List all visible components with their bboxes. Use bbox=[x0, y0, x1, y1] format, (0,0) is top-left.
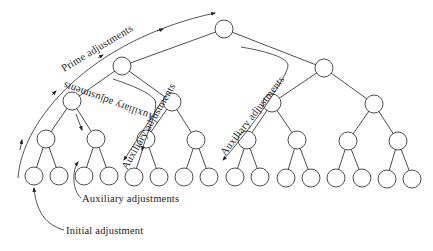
node-l3 bbox=[339, 132, 357, 150]
node-leaf bbox=[200, 168, 218, 186]
node-leaf bbox=[302, 169, 320, 187]
initial-adjustment-arrow bbox=[34, 188, 64, 230]
node-leaf bbox=[175, 168, 193, 186]
node-leaf bbox=[150, 168, 168, 186]
tree-nodes bbox=[25, 20, 421, 188]
node-l3 bbox=[187, 131, 205, 149]
node-leaf bbox=[25, 167, 43, 185]
node-leaf bbox=[75, 167, 93, 185]
node-leaf bbox=[251, 168, 269, 186]
node-l3 bbox=[87, 130, 105, 148]
node-root bbox=[215, 20, 233, 38]
node-leaf bbox=[226, 168, 244, 186]
node-leaf bbox=[50, 167, 68, 185]
initial-adjustment-label: Initial adjustment bbox=[66, 225, 143, 236]
aux-arrow-small bbox=[76, 114, 82, 130]
tree-diagram: Prime adjustments Auxiliary adjustments … bbox=[0, 0, 433, 251]
node-l1 bbox=[113, 57, 131, 75]
node-leaf bbox=[378, 170, 396, 188]
node-leaf bbox=[353, 169, 371, 187]
aux-label-bottom: Auxiliary adjustments bbox=[82, 193, 179, 204]
node-leaf bbox=[100, 167, 118, 185]
node-l3 bbox=[37, 130, 55, 148]
node-l3 bbox=[288, 131, 306, 149]
node-l3 bbox=[389, 132, 407, 150]
node-l1 bbox=[315, 59, 333, 77]
node-l2 bbox=[365, 95, 383, 113]
node-leaf bbox=[403, 170, 421, 188]
node-leaf bbox=[277, 169, 295, 187]
node-leaf bbox=[327, 169, 345, 187]
